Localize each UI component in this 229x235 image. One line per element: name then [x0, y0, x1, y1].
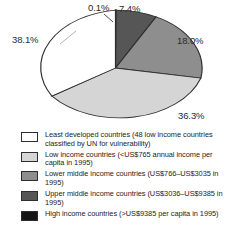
- legend-item-least-developed: Least developed countries (48 low income…: [0, 131, 229, 148]
- legend-swatch-icon: [21, 152, 38, 162]
- legend-swatch-icon: [21, 132, 38, 142]
- legend-swatch-icon: [21, 171, 38, 181]
- legend-item-low-income: Low income countries (<US$765 annual inc…: [0, 151, 229, 168]
- pie-label-upper-middle: 7.4%: [119, 3, 140, 14]
- legend-swatch-icon: [21, 191, 38, 201]
- legend-item-upper-middle-income: Upper middle income countries (US$3036–U…: [0, 190, 229, 207]
- pie-chart: 0.1% 7.4% 18.0% 36.3% 38.1%: [0, 0, 229, 133]
- pie-label-least-developed: 38.1%: [12, 34, 38, 45]
- legend-item-label: Least developed countries (48 low income…: [45, 131, 229, 148]
- legend-item-high-income: High income countries (>US$9385 per capi…: [0, 210, 229, 221]
- legend-item-label: Upper middle income countries (US$3036–U…: [45, 190, 229, 207]
- pie-label-low-income: 36.3%: [178, 110, 204, 121]
- legend-item-lower-middle-income: Lower middle income countries (US$766–US…: [0, 170, 229, 187]
- pie-label-lower-middle: 18.0%: [177, 35, 203, 46]
- legend-item-label: Lower middle income countries (US$766–US…: [45, 170, 229, 187]
- chart-legend: Least developed countries (48 low income…: [0, 131, 229, 223]
- legend-item-label: High income countries (>US$9385 per capi…: [45, 210, 229, 219]
- legend-swatch-icon: [21, 211, 38, 221]
- legend-item-label: Low income countries (<US$765 annual inc…: [45, 151, 229, 168]
- pie-label-high-income: 0.1%: [88, 2, 109, 13]
